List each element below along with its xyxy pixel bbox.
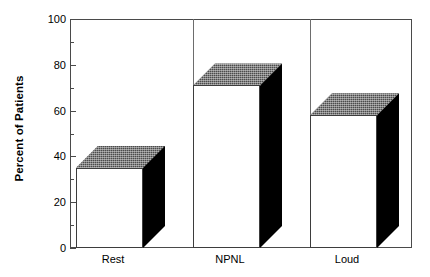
y-major-tick — [70, 156, 76, 157]
y-minor-tick — [70, 88, 74, 89]
y-tick-label: 100 — [32, 13, 66, 25]
x-tick-label-npnl: NPNL — [215, 253, 244, 265]
y-tick-label: 80 — [32, 59, 66, 71]
y-tick-label: 40 — [32, 150, 66, 162]
y-major-tick — [70, 111, 76, 112]
y-minor-tick — [70, 134, 74, 135]
y-minor-tick — [70, 179, 74, 180]
y-major-tick — [70, 65, 76, 66]
x-tick-label-loud: Loud — [335, 253, 359, 265]
y-tick-label: 20 — [32, 196, 66, 208]
y-major-tick — [70, 19, 76, 20]
bar-loud-front-face — [310, 115, 377, 248]
y-major-tick — [70, 248, 76, 249]
y-tick-label: 0 — [32, 242, 66, 254]
y-minor-tick — [70, 42, 74, 43]
bar-rest-front-face — [76, 168, 143, 248]
x-tick-label-rest: Rest — [102, 253, 125, 265]
bar-chart: Percent of Patients 100 80 60 40 20 0 — [0, 0, 430, 277]
y-tick-label: 60 — [32, 105, 66, 117]
bar-npnl-front-face — [193, 85, 260, 248]
y-axis-tick-labels: 100 80 60 40 20 0 — [0, 0, 66, 277]
y-minor-tick — [70, 225, 74, 226]
